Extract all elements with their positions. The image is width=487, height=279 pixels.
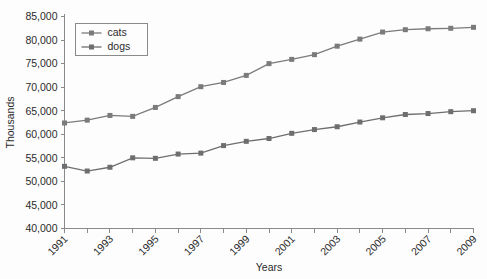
data-point-dogs [107, 165, 112, 170]
data-point-cats [244, 73, 249, 78]
data-point-dogs [221, 143, 226, 148]
data-point-cats [312, 52, 317, 57]
data-point-cats [335, 44, 340, 49]
y-tick-label: 50,000 [25, 175, 57, 187]
chart-canvas: 85,00080,00075,00070,00065,00060,00055,0… [0, 0, 487, 279]
data-point-dogs [357, 120, 362, 125]
data-point-dogs [471, 108, 476, 113]
data-point-dogs [85, 169, 90, 174]
y-tick-label: 65,000 [25, 105, 57, 117]
x-tick-label: 1993 [90, 232, 115, 257]
data-point-cats [448, 26, 453, 31]
data-point-dogs [426, 111, 431, 116]
x-tick-label: 2001 [272, 232, 297, 257]
x-tick-label: 1991 [45, 232, 70, 257]
x-tick-label: 2007 [408, 232, 433, 257]
legend-label-dogs: dogs [108, 40, 131, 52]
data-point-dogs [380, 115, 385, 120]
data-point-cats [267, 61, 272, 66]
data-point-cats [198, 84, 203, 89]
data-point-dogs [289, 131, 294, 136]
data-point-cats [107, 113, 112, 118]
data-point-dogs [176, 152, 181, 157]
data-point-cats [289, 57, 294, 62]
data-point-cats [426, 26, 431, 31]
x-tick-label: 1995 [136, 232, 161, 257]
data-point-cats [62, 120, 67, 125]
y-tick-label: 85,000 [25, 10, 57, 22]
data-point-dogs [312, 127, 317, 132]
y-tick-label: 70,000 [25, 81, 57, 93]
y-axis-title: Thousands [4, 97, 16, 149]
data-point-cats [403, 27, 408, 32]
y-tick-label: 60,000 [25, 128, 57, 140]
data-point-cats [153, 105, 158, 110]
data-point-dogs [130, 155, 135, 160]
line-chart: 85,00080,00075,00070,00065,00060,00055,0… [0, 0, 487, 279]
data-point-cats [471, 25, 476, 30]
data-point-dogs [244, 139, 249, 144]
data-point-cats [85, 118, 90, 123]
x-tick-label: 2009 [454, 232, 479, 257]
x-tick-label: 2005 [363, 232, 388, 257]
data-point-dogs [267, 136, 272, 141]
data-point-cats [357, 37, 362, 42]
y-tick-label: 75,000 [25, 57, 57, 69]
data-point-dogs [153, 156, 158, 161]
data-point-dogs [403, 112, 408, 117]
legend-swatch-marker-dogs [89, 45, 94, 50]
data-point-cats [221, 80, 226, 85]
y-tick-label: 55,000 [25, 152, 57, 164]
data-point-dogs [335, 124, 340, 129]
x-tick-label: 1997 [181, 232, 206, 257]
x-tick-label: 1999 [227, 232, 252, 257]
data-point-cats [380, 30, 385, 35]
legend-swatch-marker-cats [89, 31, 94, 36]
data-point-dogs [448, 109, 453, 114]
data-point-dogs [198, 151, 203, 156]
data-point-cats [176, 94, 181, 99]
y-tick-label: 45,000 [25, 199, 57, 211]
x-tick-label: 2003 [318, 232, 343, 257]
legend-label-cats: cats [108, 26, 127, 38]
x-axis-title: Years [256, 261, 282, 273]
data-point-dogs [62, 164, 67, 169]
y-tick-label: 40,000 [25, 222, 57, 234]
y-tick-label: 80,000 [25, 34, 57, 46]
data-point-cats [130, 114, 135, 119]
